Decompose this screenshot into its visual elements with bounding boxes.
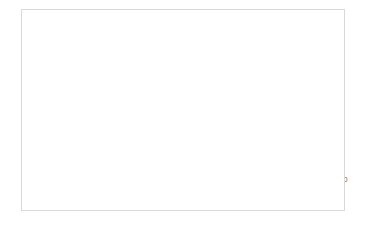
chart-outer-frame [21, 9, 345, 211]
chart-container: 00.20.40.60.811.2 0200040006000800010000… [0, 0, 366, 226]
